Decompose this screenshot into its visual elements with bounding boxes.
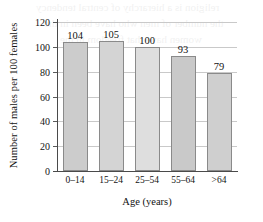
x-category-label-0–14: 0–14 [66, 175, 85, 185]
y-tick-label-40: 40 [40, 116, 50, 127]
bar-25–54: 100 [135, 47, 160, 171]
y-axis-title: Number of males per 100 females [8, 16, 19, 176]
x-category-label-15–24: 15–24 [99, 175, 123, 185]
x-category-label-55–64: 55–64 [171, 175, 195, 185]
y-axis-line [57, 19, 58, 171]
x-axis-title: Age (years) [57, 196, 237, 207]
gridline-120 [57, 22, 237, 23]
bar->64: 79 [207, 73, 232, 171]
y-tick-label-0: 0 [45, 166, 50, 177]
bar-value-label-0–14: 104 [67, 30, 83, 41]
x-category-label->64: >64 [212, 175, 227, 185]
y-tick-label-60: 60 [40, 91, 50, 102]
bar-value-label-55–64: 93 [178, 44, 189, 55]
bar-value-label-15–24: 105 [103, 29, 119, 40]
bar-value-label-25–54: 100 [139, 35, 155, 46]
bar-value-label->64: 79 [214, 61, 225, 72]
y-tick-label-100: 100 [35, 41, 50, 52]
x-category-label-25–54: 25–54 [135, 175, 159, 185]
x-axis-line [53, 171, 238, 172]
bar-0–14: 104 [63, 42, 88, 171]
y-tick-label-120: 120 [35, 17, 50, 28]
y-tick-label-20: 20 [40, 141, 50, 152]
y-tick-label-80: 80 [40, 66, 50, 77]
bar-15–24: 105 [99, 41, 124, 171]
bar-chart-figure: Number of males per 100 females Age (yea… [0, 0, 263, 222]
bar-55–64: 93 [171, 56, 196, 171]
plot-area: 020406080100120 1041051009379 0–1415–242… [57, 22, 237, 171]
